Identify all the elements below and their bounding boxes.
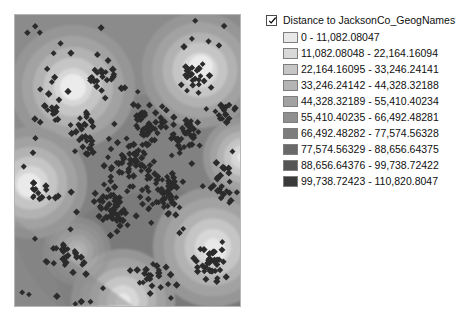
legend-color-swatch[interactable] [283, 48, 298, 59]
legend-class-label: 77,574.56329 - 88,656.64375 [301, 144, 439, 155]
legend-class-row[interactable]: 99,738.72423 - 110,820.8047 [283, 173, 456, 189]
map-canvas[interactable] [15, 15, 240, 306]
legend-color-swatch[interactable] [283, 112, 298, 123]
legend-panel: Distance to JacksonCo_GeogNames 0 - 11,0… [266, 14, 456, 189]
legend-class-row[interactable]: 22,164.16095 - 33,246.24141 [283, 61, 456, 77]
legend-class-label: 55,410.40235 - 66,492.48281 [301, 112, 439, 123]
legend-color-swatch[interactable] [283, 96, 298, 107]
layer-visibility-checkbox[interactable] [266, 15, 277, 26]
legend-class-row[interactable]: 11,082.08048 - 22,164.16094 [283, 45, 456, 61]
legend-color-swatch[interactable] [283, 144, 298, 155]
legend-class-row[interactable]: 55,410.40235 - 66,492.48281 [283, 109, 456, 125]
legend-class-label: 44,328.32189 - 55,410.40234 [301, 96, 439, 107]
legend-color-swatch[interactable] [283, 176, 298, 187]
legend-color-swatch[interactable] [283, 32, 298, 43]
legend-header[interactable]: Distance to JacksonCo_GeogNames [266, 14, 456, 26]
legend-color-swatch[interactable] [283, 128, 298, 139]
legend-color-swatch[interactable] [283, 80, 298, 91]
clipped-header-text: ...... ... [8, 0, 38, 3]
point-features-layer [15, 15, 240, 306]
legend-class-list: 0 - 11,082.0804711,082.08048 - 22,164.16… [283, 29, 456, 189]
legend-class-label: 33,246.24142 - 44,328.32188 [301, 80, 439, 91]
legend-class-label: 66,492.48282 - 77,574.56328 [301, 128, 439, 139]
legend-class-label: 99,738.72423 - 110,820.8047 [301, 176, 438, 187]
legend-class-label: 0 - 11,082.08047 [301, 32, 380, 43]
legend-color-swatch[interactable] [283, 64, 298, 75]
legend-class-row[interactable]: 44,328.32189 - 55,410.40234 [283, 93, 456, 109]
legend-class-row[interactable]: 66,492.48282 - 77,574.56328 [283, 125, 456, 141]
legend-class-label: 22,164.16095 - 33,246.24141 [301, 64, 439, 75]
checkmark-icon [268, 17, 277, 26]
legend-title: Distance to JacksonCo_GeogNames [283, 14, 455, 26]
legend-color-swatch[interactable] [283, 160, 298, 171]
legend-class-row[interactable]: 33,246.24142 - 44,328.32188 [283, 77, 456, 93]
application-window: ...... ... [0, 0, 460, 330]
legend-class-row[interactable]: 88,656.64376 - 99,738.72422 [283, 157, 456, 173]
legend-class-row[interactable]: 0 - 11,082.08047 [283, 29, 456, 45]
legend-class-label: 11,082.08048 - 22,164.16094 [301, 48, 438, 59]
map-frame[interactable] [14, 14, 241, 307]
legend-class-row[interactable]: 77,574.56329 - 88,656.64375 [283, 141, 456, 157]
legend-class-label: 88,656.64376 - 99,738.72422 [301, 160, 439, 171]
